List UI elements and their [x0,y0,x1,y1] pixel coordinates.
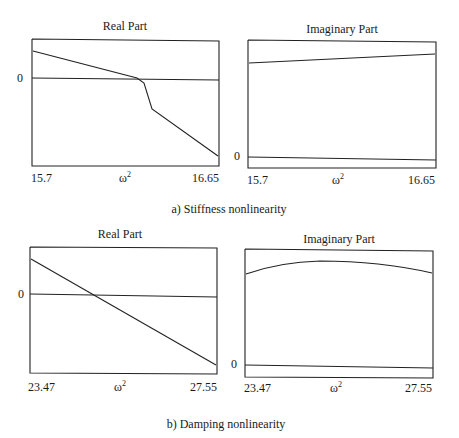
x-label-a-real: ω2 [119,170,131,185]
caption-a: a) Stiffness nonlinearity [171,202,286,216]
y-tick-a-imag: 0 [234,149,240,163]
real-curve [33,51,218,156]
x-label-a-imag: ω2 [332,172,344,187]
y-tick-a-real: 0 [17,71,23,85]
title-b-imag: Imaginary Part [303,232,375,246]
x-tick-min-a-imag: 15.7 [247,173,268,187]
x-tick-min-a-real: 15.7 [31,171,52,185]
y-tick-b-imag: 0 [231,357,237,371]
title-a-imag: Imaginary Part [306,22,378,36]
x-label-b-imag: ω2 [330,380,342,395]
axes-frame [245,249,433,378]
x-label-b-real: ω2 [114,379,126,394]
plot-a-imag [248,40,436,168]
zero-line [248,157,436,160]
imag-curve [249,54,435,63]
plot-b-imag [245,249,433,378]
x-tick-max-b-imag: 27.55 [405,381,432,395]
x-tick-max-a-real: 16.65 [192,171,219,185]
x-tick-max-b-real: 27.55 [190,380,217,394]
imag-curve [246,261,432,274]
real-curve [31,259,216,365]
zero-line [30,294,217,297]
zero-line [245,365,433,368]
x-tick-max-a-imag: 16.65 [408,173,435,187]
zero-line [32,78,219,80]
x-tick-min-b-imag: 23.47 [244,381,271,395]
x-tick-min-b-real: 23.47 [28,380,55,394]
caption-b: b) Damping nonlinearity [167,417,286,431]
title-a-real: Real Part [103,19,148,33]
axes-frame [248,40,436,168]
y-tick-b-real: 0 [18,287,24,301]
figure: Real Part 0 15.7 16.65 ω2 Imaginary Part… [0,0,459,438]
axes-frame [30,247,217,374]
plot-a-real [32,39,219,166]
title-b-real: Real Part [98,227,143,241]
plot-b-real [30,247,217,374]
